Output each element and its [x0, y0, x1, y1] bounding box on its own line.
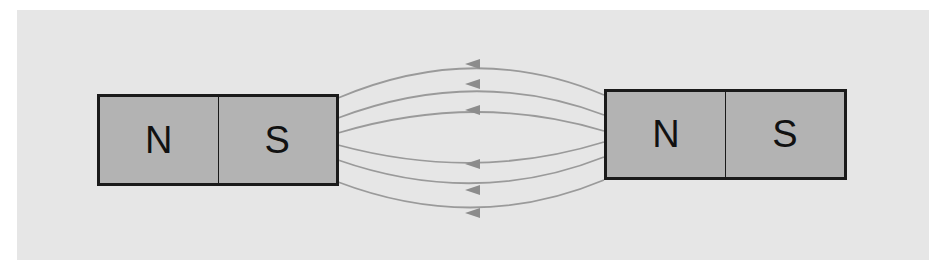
left-magnet-south-pole: S: [218, 97, 337, 183]
arrow-icon: [465, 79, 480, 89]
field-line-3: [338, 112, 604, 133]
arrow-icon: [465, 208, 480, 218]
left-magnet: N S: [97, 94, 339, 186]
arrow-icon: [465, 159, 480, 169]
right-magnet-south-pole: S: [725, 92, 844, 177]
field-line-4: [338, 142, 604, 163]
arrow-icon: [465, 185, 480, 195]
right-magnet-north-pole: N: [607, 92, 725, 177]
left-magnet-north-pole: N: [100, 97, 218, 183]
field-line-5: [338, 157, 604, 183]
right-magnet: N S: [604, 89, 847, 180]
arrow-icon: [465, 105, 480, 115]
field-line-2: [338, 91, 604, 118]
